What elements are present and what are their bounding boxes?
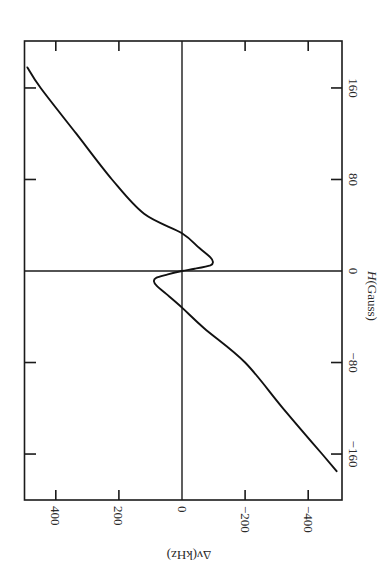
- h-axis-label-unit: (Gauss): [365, 280, 380, 320]
- h-tick-label: 0: [346, 268, 361, 275]
- dv-tick-label: 200: [111, 506, 126, 526]
- dv-tick-label: −400: [301, 506, 316, 533]
- h-axis-ticks: −160−80080160: [25, 78, 362, 467]
- h-tick-label: 160: [346, 78, 361, 98]
- dv-tick-label: 0: [175, 506, 190, 513]
- chart-figure: 4002000−200−400 −160−80080160 Δν(kHz) H(…: [0, 0, 392, 581]
- dv-tick-label: −200: [238, 506, 253, 533]
- h-tick-label: −80: [346, 352, 361, 372]
- h-tick-label: 80: [346, 173, 361, 186]
- h-tick-label: −160: [346, 441, 361, 468]
- dv-tick-label: 400: [48, 506, 63, 526]
- h-axis-label-italic: H: [365, 270, 380, 281]
- h-axis-label: H(Gauss): [365, 270, 380, 321]
- dv-axis-label: Δν(kHz): [167, 548, 212, 563]
